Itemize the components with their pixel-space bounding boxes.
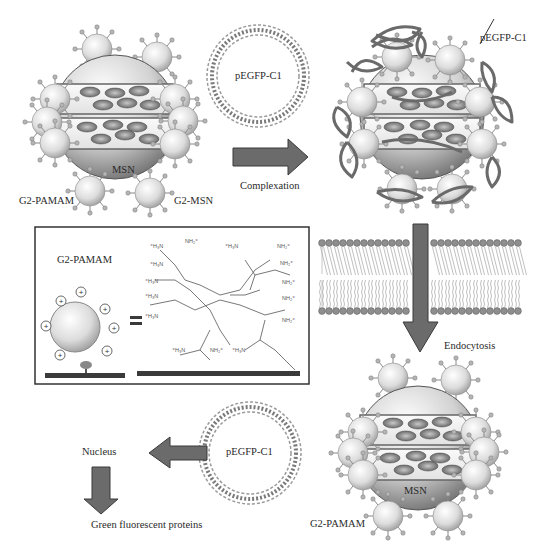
svg-text:+: + (105, 347, 110, 356)
svg-text:⁺H₃N: ⁺H₃N (232, 347, 245, 353)
svg-text:NH₂⁺: NH₂⁺ (185, 238, 198, 244)
msn-label: MSN (112, 164, 135, 175)
svg-text:+: + (103, 305, 108, 314)
svg-text:⁺H₃N: ⁺H₃N (145, 293, 158, 299)
g2-pamam-label: G2-PAMAM (19, 195, 74, 206)
svg-text:+: + (59, 297, 64, 306)
svg-text:+: + (79, 288, 84, 297)
gfp-label: Green fluorescent proteins (91, 519, 202, 530)
nucleus-label: Nucleus (82, 446, 116, 457)
msn-label-bottom: MSN (404, 485, 427, 496)
g2-pamam-inset-box: +++ ++++ ⁺H₃NNH₂⁺⁺H₃NNH₂⁺ ⁺H₃NNH₂⁺⁺H₃NNH… (35, 227, 309, 384)
svg-text:NH₂⁺: NH₂⁺ (277, 243, 290, 249)
complexation-arrow-icon (233, 139, 308, 175)
svg-text:NH₂⁺: NH₂⁺ (280, 260, 293, 266)
svg-text:⁺H₃N: ⁺H₃N (145, 313, 158, 319)
svg-text:NH₂⁺: NH₂⁺ (282, 317, 295, 323)
svg-text:⁺H₃N: ⁺H₃N (172, 347, 185, 353)
endocytosis-label: Endocytosis (444, 340, 495, 351)
plasmid-label-bottom: pEGFP-C1 (226, 446, 273, 457)
plasmid-label-top: pEGFP-C1 (235, 70, 282, 81)
g2-msn-nanoparticle (23, 25, 207, 217)
g2-msn-label: G2-MSN (174, 195, 213, 206)
svg-text:NH₂⁺: NH₂⁺ (282, 295, 295, 301)
nucleus-arrow-icon (149, 437, 207, 468)
internalized-g2-msn (329, 354, 508, 540)
svg-text:NH₂⁺: NH₂⁺ (282, 279, 295, 285)
msn-plasmid-complex (334, 19, 512, 213)
g2-pamam-label-bottom: G2-PAMAM (310, 518, 365, 529)
complexation-label: Complexation (240, 180, 300, 191)
svg-text:+: + (112, 324, 117, 333)
svg-text:NH₂⁺: NH₂⁺ (210, 347, 223, 353)
inset-title: G2-PAMAM (57, 254, 112, 265)
svg-text:⁺H₃N: ⁺H₃N (145, 278, 158, 284)
svg-text:+: + (44, 322, 49, 331)
svg-text:⁺H₃N: ⁺H₃N (225, 243, 238, 249)
diagram-canvas: +++ ++++ ⁺H₃NNH₂⁺⁺H₃NNH₂⁺ ⁺H₃NNH₂⁺⁺H₃NNH… (0, 0, 548, 551)
svg-text:⁺H₃N: ⁺H₃N (150, 243, 163, 249)
svg-text:⁺H₃N: ⁺H₃N (150, 261, 163, 267)
plasmid-pointer-label: pEGFP-C1 (480, 32, 527, 43)
svg-text:+: + (58, 351, 63, 360)
expression-arrow-icon (84, 467, 118, 514)
